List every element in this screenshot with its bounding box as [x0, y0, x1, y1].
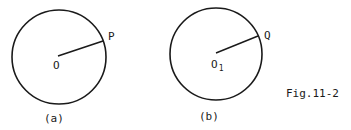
panel-a: O P (a)	[12, 10, 115, 125]
figure-caption: Fig.11-2	[286, 87, 339, 100]
panel-b: O1 Q (b)	[170, 8, 271, 123]
center-label-o: O	[53, 59, 60, 72]
circle-a	[12, 10, 106, 104]
point-label-q: Q	[264, 29, 271, 42]
center-label-o1-subscript: 1	[219, 64, 224, 73]
radius-op	[58, 41, 103, 56]
panel-label-b: (b)	[199, 110, 219, 123]
point-label-p: P	[108, 30, 115, 43]
center-label-o1-main: O	[211, 58, 218, 71]
figure-canvas: O P (a) O1 Q (b) Fig.11-2	[0, 0, 351, 130]
panel-label-a: (a)	[44, 112, 64, 125]
radius-o1q	[216, 36, 258, 53]
center-label-o1: O1	[211, 58, 224, 73]
circle-b	[170, 8, 262, 100]
